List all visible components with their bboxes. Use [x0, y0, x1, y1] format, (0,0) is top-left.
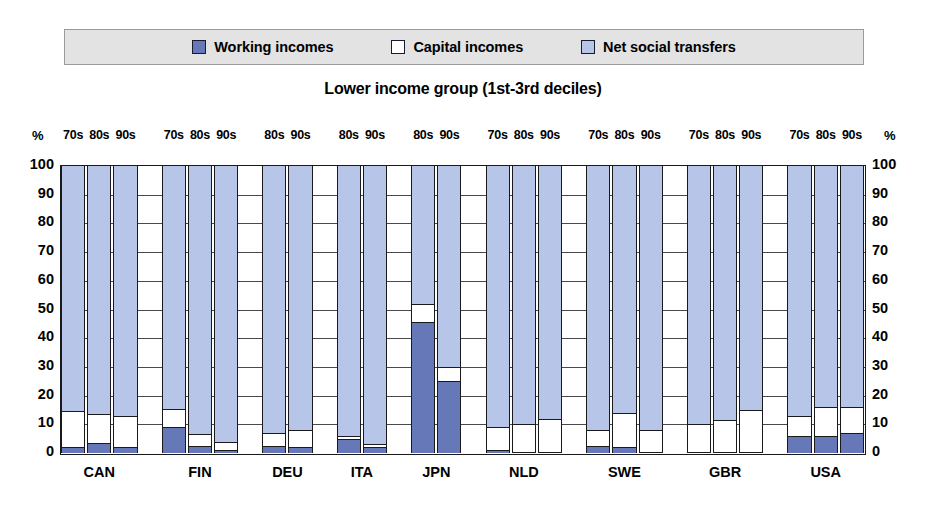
country-label: SWE	[586, 464, 663, 480]
stacked-bar	[840, 166, 864, 453]
bar-segment-net-social-transfers	[437, 166, 461, 367]
decade-label: 90s	[639, 128, 663, 142]
square-swatch-icon	[581, 40, 595, 54]
decade-group: 70s80s90s	[787, 128, 864, 142]
decade-group: 70s80s90s	[61, 128, 138, 142]
bar-segment-net-social-transfers	[713, 166, 737, 420]
stacked-bar	[162, 166, 186, 453]
bar-segment-net-social-transfers	[586, 166, 610, 430]
stacked-bar	[639, 166, 663, 453]
stacked-bar	[337, 166, 361, 453]
bar-segment-capital-incomes	[87, 414, 111, 443]
country-group	[486, 166, 563, 453]
decade-label: 90s	[840, 128, 864, 142]
y-tick-label: 90	[872, 186, 906, 201]
legend-label: Capital incomes	[413, 39, 523, 55]
bar-segment-capital-incomes	[814, 407, 838, 436]
y-tick-label: 50	[872, 301, 906, 316]
stacked-bar	[61, 166, 85, 453]
country-group	[262, 166, 312, 453]
country-label: JPN	[411, 464, 461, 480]
bar-segment-working-incomes	[188, 446, 212, 453]
decade-label: 90s	[739, 128, 763, 142]
country-label: ITA	[337, 464, 387, 480]
bar-segment-working-incomes	[814, 436, 838, 453]
bar-segment-net-social-transfers	[87, 166, 111, 414]
stacked-bar	[262, 166, 286, 453]
bar-groups	[61, 166, 864, 453]
stacked-bar	[363, 166, 387, 453]
country-label: FIN	[162, 464, 239, 480]
decade-label: 90s	[288, 128, 312, 142]
bar-segment-net-social-transfers	[214, 166, 238, 442]
y-tick-label: 0	[872, 444, 906, 459]
legend-label: Net social transfers	[603, 39, 736, 55]
bar-segment-capital-incomes	[411, 304, 435, 323]
bar-segment-net-social-transfers	[639, 166, 663, 430]
bar-segment-net-social-transfers	[61, 166, 85, 411]
bar-segment-net-social-transfers	[262, 166, 286, 433]
stacked-bar	[113, 166, 137, 453]
decade-label-row: 70s80s90s70s80s90s80s90s80s90s80s90s70s8…	[61, 128, 864, 146]
y-tick-label: 60	[872, 272, 906, 287]
bar-segment-net-social-transfers	[739, 166, 763, 410]
bar-segment-net-social-transfers	[512, 166, 536, 424]
bar-segment-net-social-transfers	[612, 166, 636, 413]
bar-segment-working-incomes	[363, 447, 387, 453]
y-tick-label: 50	[20, 301, 54, 316]
decade-label: 90s	[538, 128, 562, 142]
bar-segment-capital-incomes	[512, 424, 536, 451]
bar-segment-capital-incomes	[486, 427, 510, 450]
decade-label: 90s	[113, 128, 137, 142]
y-axis-unit-left: %	[32, 128, 44, 143]
decade-label: 80s	[87, 128, 111, 142]
chart-page: Working incomesCapital incomesNet social…	[0, 0, 926, 513]
bar-segment-working-incomes	[262, 446, 286, 453]
bar-segment-working-incomes	[840, 433, 864, 453]
bar-segment-net-social-transfers	[411, 166, 435, 304]
y-tick-label: 40	[872, 329, 906, 344]
country-label: NLD	[486, 464, 563, 480]
stacked-bar	[437, 166, 461, 453]
decade-group: 80s90s	[262, 128, 312, 142]
bar-segment-capital-incomes	[162, 409, 186, 428]
stacked-bar	[411, 166, 435, 453]
bar-segment-capital-incomes	[713, 420, 737, 452]
decade-group: 80s90s	[337, 128, 387, 142]
bar-segment-capital-incomes	[538, 419, 562, 452]
y-tick-label: 40	[20, 329, 54, 344]
bar-segment-working-incomes	[214, 450, 238, 453]
y-tick-label: 20	[872, 387, 906, 402]
bar-segment-capital-incomes	[214, 442, 238, 451]
decade-label: 70s	[486, 128, 510, 142]
bar-segment-working-incomes	[787, 436, 811, 453]
y-tick-label: 80	[20, 214, 54, 229]
country-label-row: CANFINDEUITAJPNNLDSWEGBRUSA	[61, 464, 864, 486]
bar-segment-net-social-transfers	[840, 166, 864, 407]
bar-segment-net-social-transfers	[188, 166, 212, 434]
stacked-bar	[814, 166, 838, 453]
y-tick-label: 10	[20, 415, 54, 430]
bar-segment-working-incomes	[687, 452, 711, 453]
square-swatch-icon	[192, 40, 206, 54]
y-tick-label: 20	[20, 387, 54, 402]
decade-label: 80s	[512, 128, 536, 142]
country-group	[787, 166, 864, 453]
bar-segment-net-social-transfers	[687, 166, 711, 424]
country-label: CAN	[61, 464, 138, 480]
decade-label: 80s	[262, 128, 286, 142]
decade-group: 70s80s90s	[586, 128, 663, 142]
stacked-bar	[586, 166, 610, 453]
decade-label: 80s	[411, 128, 435, 142]
country-group	[61, 166, 138, 453]
bar-segment-working-incomes	[87, 443, 111, 453]
y-tick-label: 100	[20, 157, 54, 172]
country-group	[687, 166, 764, 453]
decade-label: 70s	[162, 128, 186, 142]
decade-group: 70s80s90s	[687, 128, 764, 142]
y-tick-label: 30	[872, 358, 906, 373]
country-group	[162, 166, 239, 453]
bar-segment-working-incomes	[162, 427, 186, 453]
decade-label: 90s	[437, 128, 461, 142]
bar-segment-working-incomes	[739, 452, 763, 453]
